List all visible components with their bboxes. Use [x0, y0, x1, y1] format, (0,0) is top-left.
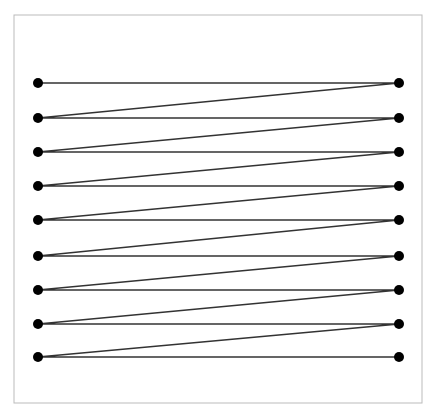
right-node-3: [394, 147, 404, 157]
left-node-4: [33, 181, 43, 191]
right-node-2: [394, 113, 404, 123]
left-node-8: [33, 319, 43, 329]
right-node-7: [394, 285, 404, 295]
zigzag-path: [38, 83, 399, 357]
left-node-2: [33, 113, 43, 123]
left-node-7: [33, 285, 43, 295]
right-node-4: [394, 181, 404, 191]
left-node-1: [33, 78, 43, 88]
right-node-5: [394, 215, 404, 225]
zigzag-diagram: [0, 0, 432, 412]
right-node-6: [394, 251, 404, 261]
left-node-6: [33, 251, 43, 261]
plot-frame: [14, 15, 422, 403]
right-node-1: [394, 78, 404, 88]
right-node-9: [394, 352, 404, 362]
left-node-5: [33, 215, 43, 225]
left-node-9: [33, 352, 43, 362]
right-node-8: [394, 319, 404, 329]
left-node-3: [33, 147, 43, 157]
